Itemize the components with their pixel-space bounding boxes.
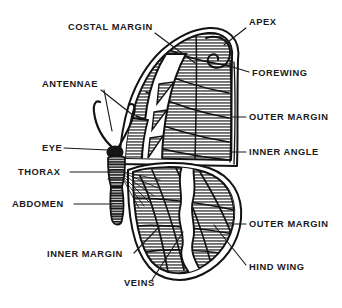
abdomen: [110, 187, 123, 225]
label-inner-angle: INNER ANGLE: [249, 147, 319, 157]
label-hind-wing: HIND WING: [249, 262, 305, 272]
label-thorax: THORAX: [18, 167, 61, 177]
label-antennae: ANTENNAE: [42, 79, 98, 89]
label-outer-margin-hind: OUTER MARGIN: [249, 219, 328, 229]
label-abdomen: ABDOMEN: [12, 199, 64, 209]
label-inner-margin: INNER MARGIN: [47, 249, 123, 259]
diagram-canvas: COSTAL MARGIN APEX ANTENNAE FOREWING OUT…: [0, 0, 342, 308]
label-forewing: FOREWING: [252, 68, 308, 78]
butterfly-anatomy-diagram: COSTAL MARGIN APEX ANTENNAE FOREWING OUT…: [0, 0, 342, 308]
label-outer-margin-fore: OUTER MARGIN: [249, 112, 328, 122]
label-apex: APEX: [249, 17, 277, 27]
label-veins: VEINS: [124, 278, 155, 288]
label-eye: EYE: [42, 143, 62, 153]
label-costal-margin: COSTAL MARGIN: [68, 22, 153, 32]
